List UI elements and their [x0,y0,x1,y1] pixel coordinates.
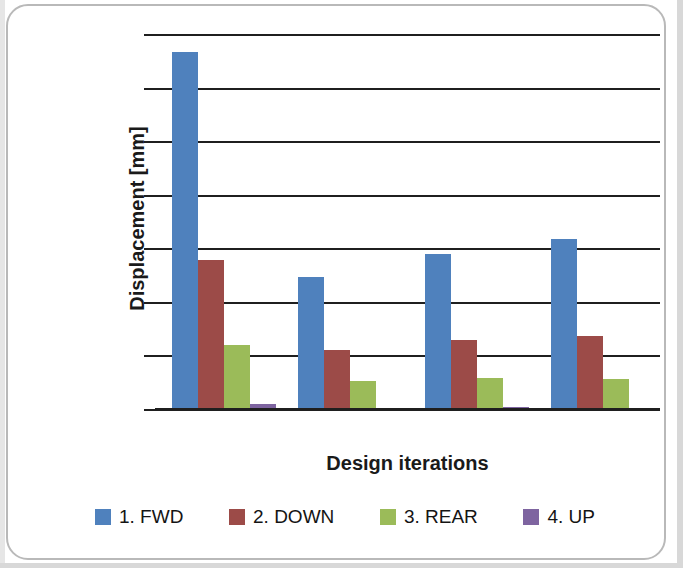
legend-label: 2. DOWN [253,506,334,528]
bar-group [534,34,660,409]
legend-item[interactable]: 3. REAR [380,506,478,528]
bar-rear [224,345,250,409]
bar-down [451,340,477,409]
x-axis-title: Design iterations [155,452,660,475]
legend-swatch-icon [95,509,111,525]
bar-down [324,350,350,409]
bars-layer [155,34,660,409]
bar-fwd [298,277,324,409]
y-axis-tick [144,409,155,411]
scan-edge-bottom [0,563,683,568]
legend-swatch-icon [523,509,539,525]
bar-fwd [425,254,451,409]
y-axis-title: Displacement [mm] [126,69,149,369]
bar-group [155,34,281,409]
scan-edge-right [677,0,683,568]
bar-rear [350,381,376,409]
bar-down [198,260,224,409]
x-axis-line [155,408,660,411]
y-axis-tick [144,141,155,143]
bar-fwd [551,239,577,409]
bar-group [281,34,407,409]
y-axis-tick [144,248,155,250]
y-axis-tick [144,34,155,36]
legend-swatch-icon [229,509,245,525]
legend-item[interactable]: 1. FWD [95,506,183,528]
bar-down [577,336,603,409]
legend-label: 3. REAR [404,506,478,528]
bar-rear [603,379,629,409]
plot-area [155,34,660,409]
scan-edge-left [0,0,5,568]
legend-swatch-icon [380,509,396,525]
bar-fwd [172,52,198,409]
y-axis-tick [144,88,155,90]
bar-group [408,34,534,409]
legend-label: 1. FWD [119,506,183,528]
legend-label: 4. UP [547,506,595,528]
chart-legend: 1. FWD2. DOWN3. REAR4. UP [95,506,595,528]
chart-figure: Displacement [mm] Design iterations 1. F… [0,0,683,568]
y-axis-tick [144,355,155,357]
bar-rear [477,378,503,409]
y-axis-tick [144,195,155,197]
y-axis-tick [144,302,155,304]
legend-item[interactable]: 4. UP [523,506,595,528]
legend-item[interactable]: 2. DOWN [229,506,334,528]
